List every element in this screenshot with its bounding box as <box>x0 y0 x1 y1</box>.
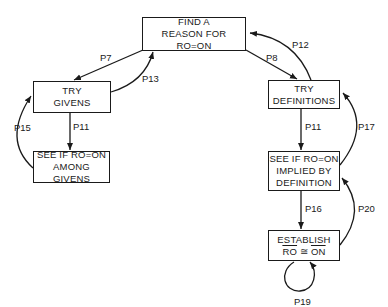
node-try-givens: TRY GIVENS <box>33 81 111 113</box>
edge-p13 <box>111 52 153 92</box>
node-see-implied: SEE IF RO=ON IMPLIED BY DEFINITION <box>268 151 340 191</box>
node-text: FIND A <box>178 16 210 28</box>
node-text: IMPLIED BY <box>276 165 331 177</box>
node-text: RO ≅ ON <box>282 246 325 258</box>
edge-p19 <box>285 262 315 291</box>
node-try-definitions: TRY DEFINITIONS <box>268 80 340 109</box>
label-p12: P12 <box>292 40 309 50</box>
node-text: GIVENS <box>53 97 90 109</box>
node-text: DEFINITIONS <box>273 95 335 107</box>
node-find-reason: FIND A REASON FOR RO=ON <box>142 17 246 51</box>
label-p13: P13 <box>142 74 159 84</box>
edge-p17 <box>340 93 357 165</box>
edge-p20 <box>340 178 355 245</box>
node-text: REASON FOR RO=ON <box>143 28 245 52</box>
label-p20: P20 <box>358 204 375 214</box>
label-p15: P15 <box>14 123 31 133</box>
label-p8: P8 <box>266 53 278 63</box>
label-p11-right: P11 <box>305 122 321 132</box>
negated-on: ON <box>311 246 326 257</box>
node-text: AMONG GIVENS <box>34 161 109 185</box>
label-p19: P19 <box>294 297 311 307</box>
node-text: TRY <box>62 85 81 97</box>
node-text: SEE IF RO=ON <box>37 149 106 161</box>
node-establish: ESTABLISH RO ≅ ON <box>268 230 340 261</box>
label-p16: P16 <box>305 204 322 214</box>
label-p7: P7 <box>100 53 112 63</box>
node-text: SEE IF RO=ON <box>269 153 338 165</box>
label-p17: P17 <box>358 122 375 132</box>
node-see-givens: SEE IF RO=ON AMONG GIVENS <box>33 151 110 183</box>
node-text: DEFINITION <box>276 177 332 189</box>
node-text: ESTABLISH <box>277 234 330 246</box>
label-p11-left: P11 <box>73 122 89 132</box>
node-text: TRY <box>294 83 313 95</box>
negated-ro: RO <box>282 246 297 257</box>
relation-symbol: ≅ <box>297 246 311 257</box>
